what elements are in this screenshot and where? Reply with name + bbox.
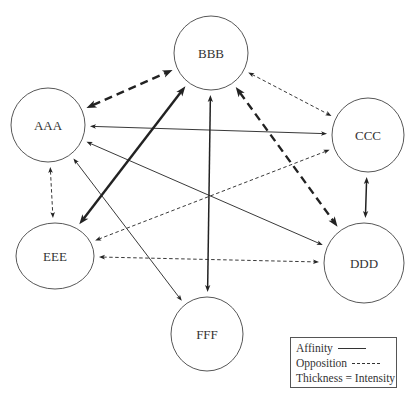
edge-aaa-bbb bbox=[86, 70, 172, 108]
dashed-line-swatch-icon bbox=[352, 363, 380, 364]
edge-bbb-ddd bbox=[236, 87, 338, 227]
legend-thickness: Thickness = Intensity bbox=[296, 371, 391, 386]
opposition-line bbox=[93, 73, 166, 105]
opposition-line bbox=[99, 151, 326, 239]
node-label: EEE bbox=[43, 249, 67, 264]
arrowhead-icon bbox=[73, 158, 78, 164]
arrowhead-icon bbox=[162, 70, 173, 78]
opposition-line bbox=[240, 93, 334, 221]
node-eee: EEE bbox=[16, 223, 94, 289]
nodes-layer: AAABBBCCCDDDEEEFFF bbox=[11, 16, 404, 371]
legend-opposition: Opposition bbox=[296, 356, 391, 371]
node-fff: FFF bbox=[171, 297, 243, 371]
legend-affinity: Affinity bbox=[296, 341, 391, 356]
edge-bbb-ccc bbox=[248, 72, 331, 115]
arrowhead-icon bbox=[50, 212, 55, 218]
opposition-line bbox=[50, 171, 52, 214]
affinity-line bbox=[84, 92, 182, 219]
opposition-line bbox=[103, 257, 315, 262]
edge-ccc-ddd bbox=[363, 177, 369, 218]
edge-aaa-fff bbox=[73, 158, 181, 300]
edge-aaa-ccc bbox=[90, 124, 327, 136]
node-label: AAA bbox=[34, 118, 63, 133]
node-ccc: CCC bbox=[332, 98, 404, 172]
affinity-line bbox=[94, 126, 323, 133]
node-ddd: DDD bbox=[324, 223, 404, 303]
opposition-line bbox=[252, 74, 328, 114]
legend-affinity-label: Affinity bbox=[296, 341, 333, 356]
arrowhead-icon bbox=[176, 295, 181, 301]
node-label: CCC bbox=[355, 128, 381, 143]
arrowhead-icon bbox=[329, 216, 338, 226]
node-bbb: BBB bbox=[174, 16, 248, 90]
legend-opposition-label: Opposition bbox=[296, 356, 347, 371]
legend-thickness-label: Thickness = Intensity bbox=[296, 371, 395, 386]
edge-ccc-eee bbox=[95, 150, 330, 241]
node-aaa: AAA bbox=[11, 88, 85, 162]
edge-aaa-eee bbox=[48, 167, 55, 218]
legend: Affinity Opposition Thickness = Intensit… bbox=[290, 337, 397, 388]
node-label: FFF bbox=[196, 327, 218, 342]
node-label: BBB bbox=[198, 46, 224, 61]
solid-line-swatch-icon bbox=[338, 348, 366, 349]
affinity-line bbox=[366, 182, 367, 213]
affinity-line bbox=[76, 162, 179, 298]
node-label: DDD bbox=[350, 256, 378, 271]
edge-eee-ddd bbox=[99, 255, 319, 264]
affinity-line bbox=[90, 143, 319, 243]
edge-bbb-fff bbox=[205, 95, 213, 292]
edges-layer bbox=[48, 70, 369, 301]
arrowhead-icon bbox=[325, 111, 331, 116]
